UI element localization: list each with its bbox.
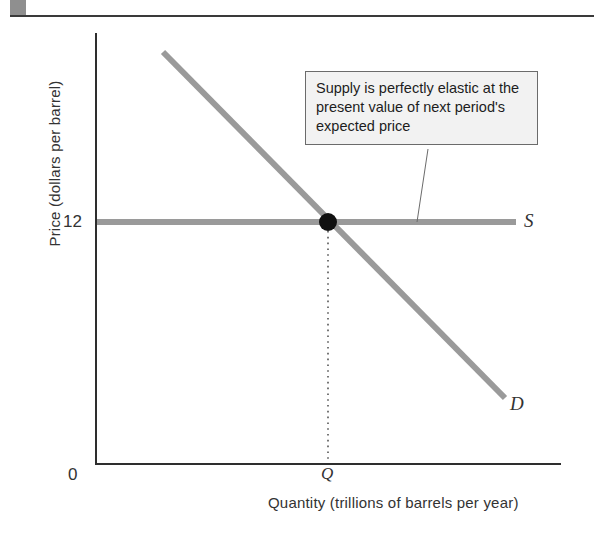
- callout-leader-line: [417, 149, 428, 222]
- y-axis-title: Price (dollars per barrel): [46, 49, 63, 279]
- annotation-callout-text: Supply is perfectly elastic at the prese…: [316, 79, 528, 136]
- annotation-callout-box: Supply is perfectly elastic at the prese…: [305, 71, 538, 145]
- equilibrium-point-marker: [319, 213, 337, 231]
- origin-label: 0: [68, 465, 77, 485]
- y-axis-tick-label-12: 12: [63, 212, 82, 232]
- figure-canvas: Price (dollars per barrel) Quantity (tri…: [0, 0, 594, 535]
- x-axis-title: Quantity (trillions of barrels per year): [268, 494, 519, 511]
- supply-curve-label: S: [524, 210, 534, 232]
- x-axis-tick-label-q: Q: [321, 464, 333, 484]
- demand-curve-label: D: [510, 393, 524, 415]
